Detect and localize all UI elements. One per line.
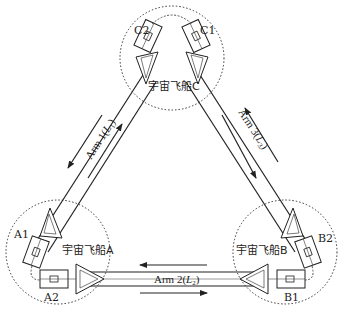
label-a1: A1	[13, 228, 29, 241]
optical-bench-b1	[268, 270, 305, 288]
spacecraft-b-label: 宇宙飞船B	[236, 243, 288, 257]
label-b1: B1	[284, 291, 299, 304]
triangle-constellation-diagram: C2 C1 A1 A2 B2 B1 宇宙飞船C 宇宙飞船A 宇宙飞船B Arm …	[0, 0, 344, 316]
spacecraft-c-boundary	[120, 6, 224, 110]
arm-3-label: Arm 3(L3)	[235, 107, 272, 153]
label-c1: C1	[200, 24, 215, 37]
telescope-b-arm2	[240, 264, 268, 294]
fiber-link-c	[152, 15, 192, 24]
diagram-canvas: C2 C1 A1 A2 B2 B1 宇宙飞船C 宇宙飞船A 宇宙飞船B Arm …	[0, 0, 344, 316]
label-b2: B2	[318, 232, 333, 245]
telescope-a-arm2	[76, 264, 104, 294]
label-a2: A2	[43, 291, 59, 304]
spacecraft-c-label: 宇宙飞船C	[148, 79, 200, 93]
telescope-b-arm3	[281, 208, 303, 238]
telescope-a-arm1	[40, 208, 62, 238]
label-c2: C2	[134, 24, 149, 37]
arm-2-label: Arm 2(L2)	[154, 273, 200, 287]
optical-bench-a2	[40, 270, 76, 288]
fiber-link-b	[305, 266, 313, 280]
arm-1-label: Arm 1(L1)	[83, 116, 120, 162]
spacecraft-a-label: 宇宙飞船A	[62, 243, 114, 257]
